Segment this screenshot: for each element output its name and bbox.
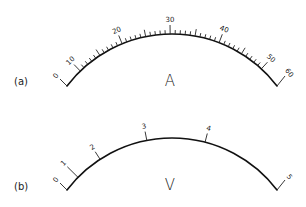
minor-tick xyxy=(233,45,235,49)
major-tick xyxy=(74,65,80,71)
panel-label: (b) xyxy=(14,181,28,192)
minor-tick xyxy=(246,53,248,56)
minor-tick xyxy=(228,43,230,47)
major-tick xyxy=(205,133,207,142)
tick-label: 5 xyxy=(285,173,294,181)
scale-end-hook-left xyxy=(60,79,67,86)
tick-label: 3 xyxy=(141,122,147,131)
meter-scales-diagram: 0102030405060(a)A012345(b)V xyxy=(0,0,306,207)
major-tick xyxy=(119,35,122,43)
minor-tick xyxy=(93,55,95,58)
minor-tick xyxy=(254,59,256,62)
minor-tick xyxy=(150,32,151,36)
minor-tick xyxy=(96,50,100,56)
tick-label: 0 xyxy=(51,72,60,80)
minor-tick xyxy=(85,61,88,64)
minor-tick xyxy=(116,42,118,46)
minor-tick xyxy=(111,44,113,48)
tick-label: 20 xyxy=(111,25,122,36)
tick-label: 4 xyxy=(205,124,212,133)
minor-tick xyxy=(89,58,91,61)
minor-tick xyxy=(102,49,104,52)
meter-scales-figure: 0102030405060(a)A012345(b)V xyxy=(0,0,306,207)
minor-tick xyxy=(107,47,109,51)
minor-tick xyxy=(237,48,239,51)
major-tick xyxy=(261,62,267,69)
minor-tick xyxy=(155,31,156,35)
major-tick xyxy=(67,167,78,178)
minor-tick xyxy=(130,37,131,41)
tick-label: 40 xyxy=(219,24,230,35)
major-tick xyxy=(95,152,100,160)
minor-tick xyxy=(195,29,196,36)
tick-label: 1 xyxy=(59,159,68,168)
tick-label: 0 xyxy=(51,176,60,184)
major-tick xyxy=(145,132,147,141)
minor-tick xyxy=(144,30,145,37)
unit-label: V xyxy=(165,176,175,194)
minor-tick xyxy=(81,65,84,68)
meter-scale-a: 0102030405060(a)A xyxy=(14,16,295,90)
scale-end-hook-right xyxy=(277,180,285,190)
tick-label: 30 xyxy=(165,16,174,24)
minor-tick xyxy=(214,37,215,41)
unit-label: A xyxy=(165,72,175,90)
minor-tick xyxy=(250,56,252,59)
panel-label: (a) xyxy=(14,76,28,87)
meter-scale-b: 012345(b)V xyxy=(14,122,294,194)
major-tick xyxy=(219,34,222,42)
tick-label: 60 xyxy=(283,67,295,79)
scale-end-hook-left xyxy=(60,183,67,190)
minor-tick xyxy=(190,31,191,35)
tick-label: 2 xyxy=(88,143,96,152)
minor-tick xyxy=(258,62,261,65)
minor-tick xyxy=(241,48,245,54)
scale-end-hook-right xyxy=(277,76,285,86)
